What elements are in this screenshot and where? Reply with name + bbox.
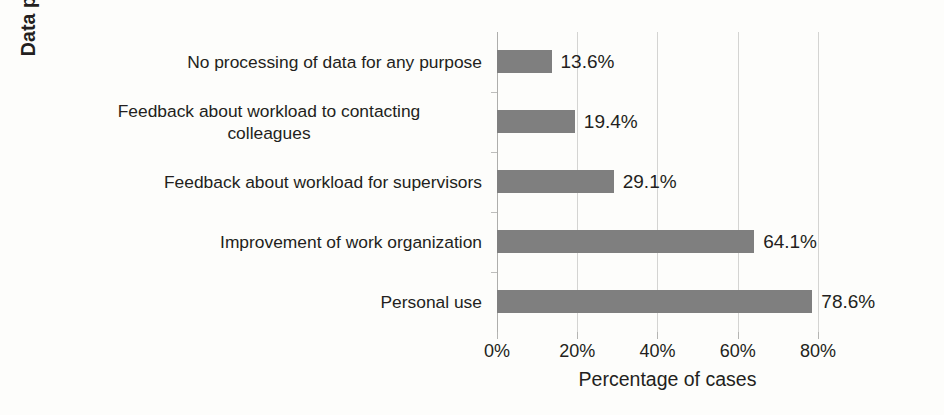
category-label-row: Personal use <box>56 272 490 332</box>
category-label: Feedback about workload for supervisors <box>164 171 490 193</box>
category-axis-labels: No processing of data for any purpose Fe… <box>56 32 490 332</box>
x-axis-tick-label: 60% <box>703 341 773 362</box>
x-axis-tick <box>577 332 578 339</box>
category-label: Personal use <box>380 291 490 313</box>
x-axis-tick-label: 40% <box>622 341 692 362</box>
y-axis-tick <box>491 92 497 93</box>
category-label-row: Feedback about workload to contacting co… <box>56 92 490 152</box>
y-axis-tick <box>491 152 497 153</box>
plot-area: 13.6%19.4%29.1%64.1%78.6% <box>497 32 838 332</box>
y-axis-tick <box>491 272 497 273</box>
x-axis-tick-label: 80% <box>783 341 853 362</box>
bar <box>497 290 812 313</box>
bar <box>497 170 614 193</box>
bar-chart: Data processing purpose No processing of… <box>0 0 944 415</box>
y-axis-tick <box>491 212 497 213</box>
category-label-row: Feedback about workload for supervisors <box>56 152 490 212</box>
bar <box>497 110 575 133</box>
category-label-row: Improvement of work organization <box>56 212 490 272</box>
gridline <box>818 32 819 332</box>
category-label-line: colleagues <box>56 122 482 144</box>
x-axis-tick <box>818 332 819 339</box>
bar <box>497 230 754 253</box>
category-label-line: Feedback about workload to contacting <box>56 100 482 122</box>
category-label: Improvement of work organization <box>220 231 490 253</box>
x-axis-title: Percentage of cases <box>497 368 838 391</box>
x-axis-tick <box>657 332 658 339</box>
bar-value-label: 29.1% <box>614 170 677 193</box>
category-label: Feedback about workload to contacting co… <box>56 100 490 145</box>
bar-value-label: 78.6% <box>812 290 875 313</box>
gridline <box>738 32 739 332</box>
category-label: No processing of data for any purpose <box>187 51 490 73</box>
bar-value-label: 64.1% <box>754 230 817 253</box>
x-axis-tick <box>497 332 498 339</box>
y-axis-title: Data processing purpose <box>0 0 56 88</box>
category-label-row: No processing of data for any purpose <box>56 32 490 92</box>
bar-value-label: 13.6% <box>552 50 615 73</box>
x-axis-tick-labels: 0%20%40%60%80% <box>497 341 838 367</box>
x-axis-tick-label: 20% <box>542 341 612 362</box>
bar <box>497 50 552 73</box>
x-axis-tick-label: 0% <box>462 341 532 362</box>
x-axis-tick <box>738 332 739 339</box>
bar-value-label: 19.4% <box>575 110 638 133</box>
